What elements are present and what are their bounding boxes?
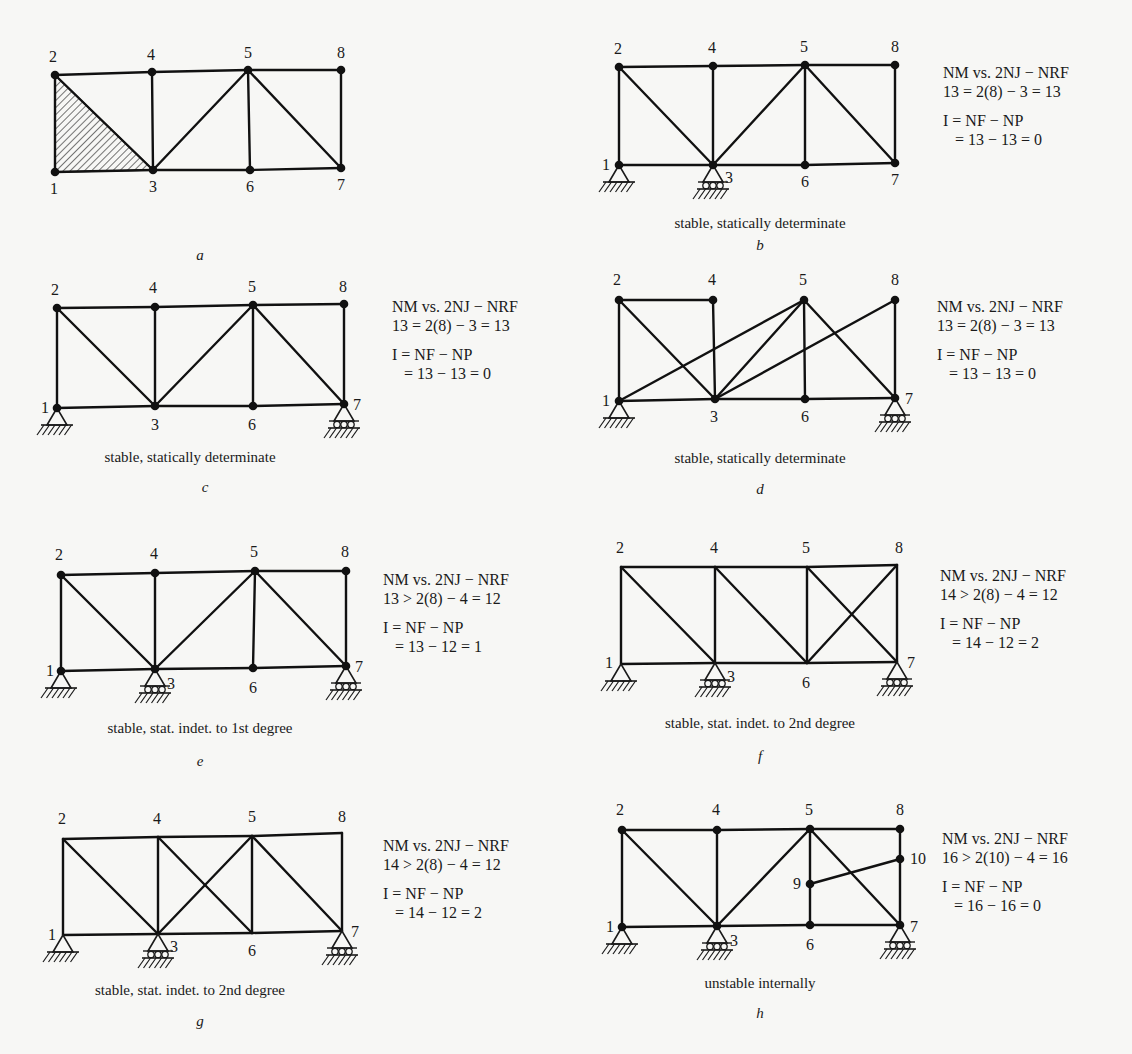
joint-1: [615, 397, 624, 406]
truss-panel-b: 24581367: [599, 38, 899, 199]
truss-member-4-5: [713, 65, 805, 66]
joint-label: 1: [606, 918, 614, 935]
truss-member-4-5: [158, 836, 252, 837]
truss-member-2-3: [63, 839, 158, 934]
equation-line: NM vs. 2NJ − NRF: [937, 297, 1063, 316]
joint-6: [246, 166, 255, 175]
truss-member-6-7: [807, 662, 897, 663]
truss-member-2-4: [61, 573, 155, 575]
joint-4: [148, 68, 157, 77]
truss-member-3-6: [155, 668, 253, 669]
truss-member-4-3: [152, 72, 153, 170]
truss-member-3-6: [717, 925, 810, 926]
joint-label: 3: [149, 178, 157, 195]
joint-label: 10: [910, 850, 926, 867]
joint-label: 8: [341, 543, 349, 560]
panel-caption-c: stable, statically determinate: [104, 449, 275, 466]
truss-member-3-5: [155, 305, 253, 406]
equation-line: = 13 − 13 = 0: [943, 130, 1069, 149]
joint-6: [249, 664, 258, 673]
joint-8: [340, 300, 349, 309]
joint-3: [149, 166, 158, 175]
equation-line: 13 = 2(8) − 3 = 13: [943, 82, 1069, 101]
joint-label: 2: [51, 281, 59, 298]
truss-member-1-5: [619, 300, 804, 401]
joint-label: 4: [710, 539, 718, 556]
joint-label: 4: [708, 271, 716, 288]
equation-line: I = NF − NP: [937, 345, 1063, 364]
panel-letter-e: e: [197, 753, 204, 770]
joint-label: 3: [730, 932, 738, 949]
joint-label: 6: [801, 408, 809, 425]
joint-1: [57, 667, 66, 676]
joint-5: [806, 825, 815, 834]
joint-label: 7: [337, 176, 345, 193]
equation-line: NM vs. 2NJ − NRF: [942, 829, 1068, 848]
joint-8: [896, 825, 905, 834]
joint-label: 4: [150, 545, 158, 562]
truss-member-4-5: [717, 829, 810, 830]
joint-label: 2: [614, 40, 622, 57]
truss-member-4-5: [152, 70, 248, 72]
joint-label: 5: [800, 38, 808, 55]
panel-letter-b: b: [756, 237, 764, 254]
truss-member-5-6: [253, 571, 255, 668]
joint-5: [801, 61, 810, 70]
joint-label: 6: [248, 416, 256, 433]
joint-label: 4: [147, 46, 155, 63]
equation-block-d: NM vs. 2NJ − NRF13 = 2(8) − 3 = 13I = NF…: [937, 297, 1063, 383]
joint-2: [615, 63, 624, 72]
joint-7: [891, 159, 900, 168]
panel-caption-g: stable, stat. indet. to 2nd degree: [95, 982, 285, 999]
truss-member-2-3: [621, 567, 715, 663]
truss-member-2-4: [57, 307, 155, 308]
joint-label: 1: [41, 399, 49, 416]
joint-2: [51, 71, 60, 80]
joint-label: 6: [249, 679, 257, 696]
joint-4: [151, 569, 160, 578]
truss-member-5-7: [253, 305, 344, 404]
joint-label: 8: [891, 38, 899, 55]
equation-line: I = NF − NP: [940, 614, 1066, 633]
panel-caption-f: stable, stat. indet. to 2nd degree: [665, 715, 855, 732]
joint-label: 6: [248, 942, 256, 959]
joint-2: [618, 826, 627, 835]
joint-label: 6: [802, 674, 810, 691]
truss-member-9-10: [810, 859, 900, 884]
truss-member-5-7: [805, 65, 895, 163]
truss-member-4-6: [715, 567, 807, 663]
joint-label: 3: [727, 668, 735, 685]
joint-4: [151, 303, 160, 312]
joint-label: 7: [891, 171, 899, 188]
truss-member-1-3: [61, 669, 155, 671]
roller-support-icon: [135, 669, 171, 703]
joint-6: [801, 395, 810, 404]
joint-label: 5: [244, 44, 252, 61]
joint-6: [801, 161, 810, 170]
truss-member-1-3: [619, 399, 715, 401]
panel-caption-d: stable, statically determinate: [674, 450, 845, 467]
joint-label: 7: [905, 390, 913, 407]
joint-2: [53, 304, 62, 313]
joint-3: [709, 161, 718, 170]
truss-member-2-4: [619, 66, 713, 67]
truss-member-4-5: [155, 305, 253, 307]
equation-block-f: NM vs. 2NJ − NRF14 > 2(8) − 4 = 12I = NF…: [940, 566, 1066, 652]
equation-line: 13 = 2(8) − 3 = 13: [392, 316, 518, 335]
truss-member-2-3: [622, 830, 717, 926]
truss-member-5-6: [804, 300, 805, 399]
joint-8: [891, 296, 900, 305]
equation-block-g: NM vs. 2NJ − NRF14 > 2(8) − 4 = 12I = NF…: [383, 836, 509, 922]
joint-1: [615, 161, 624, 170]
truss-member-3-5: [713, 65, 805, 165]
joint-7: [340, 400, 349, 409]
joint-4: [713, 826, 722, 835]
truss-panel-a: 24581367: [49, 44, 345, 197]
joint-label: 8: [339, 278, 347, 295]
truss-member-5-7: [252, 836, 342, 931]
joint-label: 9: [793, 875, 801, 892]
joint-label: 1: [46, 662, 54, 679]
truss-member-6-7: [253, 404, 344, 406]
truss-member-6-7: [805, 398, 895, 399]
truss-member-5-7: [248, 70, 341, 168]
